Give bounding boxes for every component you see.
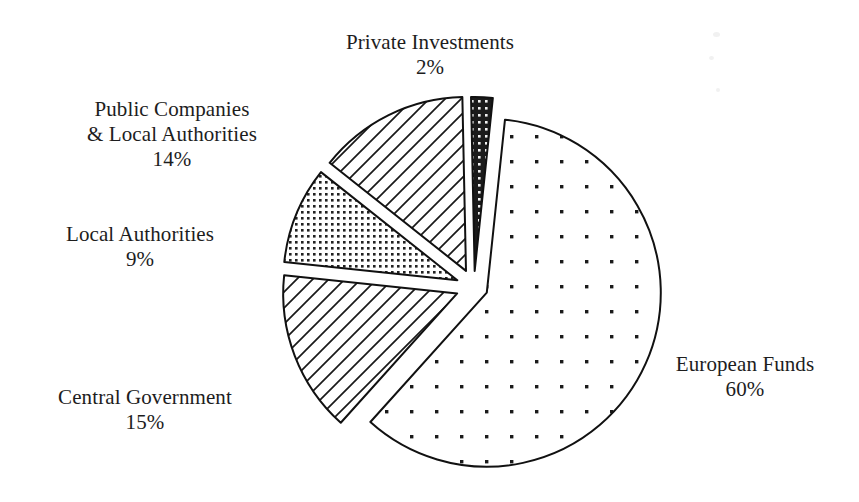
slice-label-percent: 15% bbox=[0, 410, 290, 435]
slice-label-local-authorities: Local Authorities 9% bbox=[10, 222, 270, 272]
slice-label-name: European Funds bbox=[645, 352, 845, 377]
slice-label-name-line2: & Local Authorities bbox=[22, 122, 322, 147]
pie-slices-group bbox=[283, 97, 661, 467]
pie-slice-private-investments[interactable] bbox=[471, 97, 493, 271]
slice-label-name: Private Investments bbox=[280, 30, 580, 55]
slice-label-public-companies-local-authorities: Public Companies & Local Authorities 14% bbox=[22, 97, 322, 171]
slice-label-name: Public Companies bbox=[22, 97, 322, 122]
slice-label-european-funds: European Funds 60% bbox=[645, 352, 845, 402]
slice-label-name: Central Government bbox=[0, 385, 290, 410]
slice-label-percent: 2% bbox=[280, 55, 580, 80]
slice-label-private-investments: Private Investments 2% bbox=[280, 30, 580, 80]
slice-label-percent: 60% bbox=[645, 377, 845, 402]
pie-chart-figure: Private Investments 2% Public Companies … bbox=[0, 0, 859, 502]
slice-label-name: Local Authorities bbox=[10, 222, 270, 247]
slice-label-central-government: Central Government 15% bbox=[0, 385, 290, 435]
slice-label-percent: 14% bbox=[22, 147, 322, 172]
slice-label-percent: 9% bbox=[10, 247, 270, 272]
